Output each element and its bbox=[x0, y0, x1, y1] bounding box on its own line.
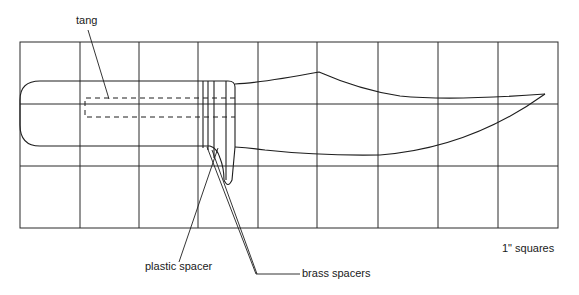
plastic-spacer-label: plastic spacer bbox=[145, 261, 212, 272]
brass-spacers-label: brass spacers bbox=[302, 268, 370, 279]
tang-label: tang bbox=[76, 15, 97, 26]
scale-note: 1" squares bbox=[502, 243, 554, 254]
tang-leader bbox=[88, 30, 109, 99]
tang-outline bbox=[85, 98, 235, 117]
leader-lines bbox=[88, 30, 300, 274]
knife-outline bbox=[20, 72, 545, 185]
knife-pattern-diagram bbox=[0, 0, 579, 295]
handle-outline bbox=[20, 81, 228, 146]
grid bbox=[20, 42, 558, 228]
